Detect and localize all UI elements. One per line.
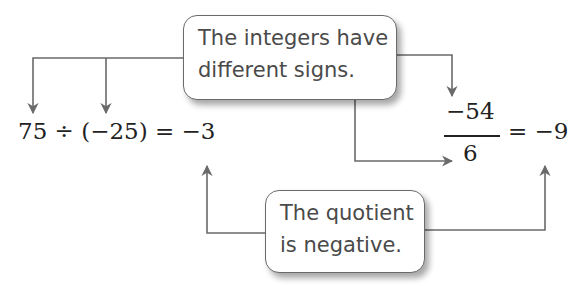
fraction-denominator: 6 bbox=[463, 140, 478, 166]
equation-right-result: = −9 bbox=[508, 118, 569, 144]
callout-line-2: different signs. bbox=[198, 54, 396, 86]
callout-line-1: The quotient bbox=[280, 197, 424, 229]
callout-different-signs: The integers have different signs. bbox=[183, 15, 397, 100]
fraction-bar bbox=[444, 135, 500, 137]
equation-left: 75 ÷ (−25) = −3 bbox=[18, 118, 215, 144]
integer-division-diagram: The integers have different signs. The q… bbox=[0, 0, 574, 287]
fraction-numerator: −54 bbox=[446, 98, 495, 124]
callout-line-1: The integers have bbox=[198, 22, 396, 54]
callout-line-2: is negative. bbox=[280, 229, 424, 261]
callout-negative-quotient: The quotient is negative. bbox=[265, 190, 425, 273]
